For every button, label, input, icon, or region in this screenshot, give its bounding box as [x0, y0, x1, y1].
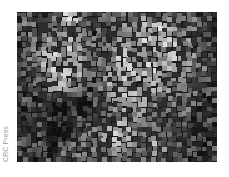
- mosaic-tile: [186, 77, 191, 82]
- mosaic-tile: [66, 152, 71, 157]
- mosaic-tile: [156, 12, 161, 17]
- mosaic-tile: [202, 151, 207, 156]
- mosaic-tile: [206, 111, 211, 116]
- mosaic-tile: [51, 31, 56, 36]
- mosaic-tile: [86, 21, 91, 26]
- mosaic-tile: [57, 86, 62, 91]
- mosaic-tile: [191, 101, 196, 106]
- mosaic-tile: [212, 37, 217, 42]
- mosaic-tile: [111, 92, 116, 97]
- mosaic-tile: [137, 62, 142, 67]
- mosaic-tile: [21, 106, 26, 111]
- mosaic-tile: [131, 41, 136, 46]
- mosaic-tile: [182, 87, 187, 92]
- mosaic-tile: [101, 111, 106, 116]
- mosaic-tile: [56, 92, 61, 97]
- mosaic-tile: [106, 36, 111, 41]
- mosaic-tile: [21, 71, 26, 76]
- mosaic-tile: [41, 106, 46, 111]
- mosaic-tile: [127, 151, 132, 156]
- mosaic-tile: [66, 158, 71, 162]
- mosaic-tile: [22, 86, 27, 91]
- mosaic-tile: [141, 16, 146, 21]
- mosaic-tile: [172, 56, 177, 61]
- mosaic-tile: [212, 156, 217, 161]
- mosaic-tile: [52, 147, 57, 152]
- mosaic-tile: [197, 136, 202, 141]
- mosaic-tile: [212, 76, 217, 81]
- photo: [17, 12, 217, 162]
- mosaic-tile: [56, 61, 61, 66]
- mosaic-tile: [102, 46, 107, 51]
- mosaic-tile: [161, 158, 166, 162]
- mosaic-tile: [176, 46, 181, 51]
- mosaic-tile: [176, 122, 181, 127]
- mosaic-tile: [212, 127, 217, 132]
- mosaic-tile: [52, 136, 57, 141]
- mosaic-tile: [136, 76, 141, 81]
- mosaic-tile: [126, 136, 131, 141]
- mosaic-tile: [201, 16, 206, 21]
- mosaic-tile: [46, 158, 51, 162]
- mosaic-tile: [111, 26, 116, 31]
- mosaic-tile: [46, 72, 51, 77]
- mosaic-tile: [202, 157, 207, 162]
- mosaic-tile: [81, 156, 86, 161]
- mosaic-tile: [161, 101, 166, 106]
- mosaic-tile: [26, 141, 31, 146]
- mosaic-tile: [211, 67, 216, 72]
- mosaic-tile: [151, 157, 156, 162]
- mosaic-tile: [142, 102, 147, 107]
- mosaic-tile: [107, 131, 112, 136]
- mosaic-tile: [51, 46, 56, 51]
- mosaic-tile: [171, 136, 176, 141]
- mosaic-tile: [116, 157, 121, 162]
- mosaic-tile: [207, 16, 212, 21]
- mosaic-tile: [36, 51, 41, 56]
- mosaic-tile: [46, 136, 51, 141]
- mosaic-texture: [17, 12, 217, 162]
- mosaic-tile: [107, 86, 112, 91]
- mosaic-tile: [181, 16, 186, 21]
- mosaic-tile: [167, 156, 172, 161]
- mosaic-tile: [87, 116, 92, 121]
- mosaic-tile: [161, 112, 166, 117]
- mosaic-tile: [136, 56, 141, 61]
- mosaic-tile: [96, 51, 101, 56]
- mosaic-tile: [32, 12, 37, 16]
- mosaic-tile: [112, 76, 117, 81]
- mosaic-tile: [191, 116, 196, 121]
- mosaic-tile: [17, 36, 21, 41]
- mosaic-tile: [212, 27, 217, 32]
- mosaic-tile: [17, 16, 21, 21]
- mosaic-tile: [66, 71, 71, 76]
- mosaic-tile: [61, 21, 66, 26]
- mosaic-tile: [121, 16, 126, 21]
- mosaic-tile: [213, 52, 217, 57]
- mosaic-tile: [71, 21, 76, 26]
- mosaic-tile: [152, 151, 157, 156]
- mosaic-tile: [186, 31, 191, 36]
- mosaic-tile: [192, 41, 197, 46]
- mosaic-tile: [212, 91, 217, 96]
- mosaic-tile: [26, 51, 31, 56]
- mosaic-tile: [71, 81, 76, 86]
- mosaic-tile: [152, 27, 157, 32]
- mosaic-tile: [116, 21, 121, 26]
- mosaic-tile: [22, 36, 27, 41]
- mosaic-tile: [151, 81, 156, 86]
- mosaic-tile: [91, 61, 96, 66]
- mosaic-tile: [26, 77, 31, 82]
- mosaic-tile: [167, 31, 172, 36]
- mosaic-tile: [106, 66, 111, 71]
- mosaic-tile: [211, 61, 216, 66]
- photo-credit: CRC Press: [2, 126, 9, 162]
- mosaic-tile: [132, 131, 137, 136]
- mosaic-tile: [147, 51, 152, 56]
- mosaic-tile: [196, 52, 201, 57]
- mosaic-tile: [116, 56, 121, 61]
- mosaic-tile: [191, 158, 196, 162]
